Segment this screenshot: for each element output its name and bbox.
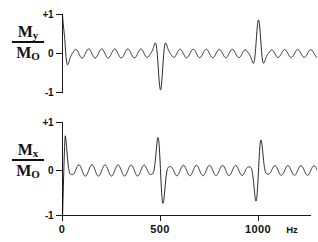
y-tick-label-my-minus1: -1 [45, 87, 54, 98]
waveform-trace-mx [63, 136, 318, 219]
y-tick-label-my-zero: 0 [48, 48, 54, 59]
y-tick-label-my-plus1: +1 [43, 9, 54, 20]
x-axis: 0 500 1000 Hz [59, 216, 311, 236]
x-axis-unit-label: Hz [286, 224, 298, 235]
figure-root: My MO Mx MO +1 0 -1 +1 0 -1 [0, 0, 317, 242]
panel-mx: +1 0 -1 [43, 117, 317, 221]
waveform-trace-my [63, 15, 318, 90]
x-tick-label-0: 0 [59, 223, 66, 235]
y-tick-label-mx-minus1: -1 [45, 210, 54, 221]
y-tick-label-mx-plus1: +1 [43, 117, 54, 128]
plot-canvas: +1 0 -1 +1 0 -1 0 500 1000 Hz [0, 0, 317, 242]
y-tick-label-mx-zero: 0 [48, 165, 54, 176]
x-tick-label-500: 500 [150, 223, 170, 235]
panel-my: +1 0 -1 [43, 9, 317, 98]
x-tick-label-1000: 1000 [245, 223, 271, 235]
